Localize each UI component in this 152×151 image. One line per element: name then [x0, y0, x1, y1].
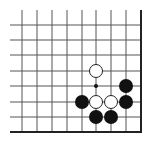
white-stone[interactable]: [105, 96, 118, 109]
black-stone[interactable]: [104, 110, 118, 124]
white-stone[interactable]: [90, 96, 103, 109]
black-stone[interactable]: [89, 110, 103, 124]
black-stone[interactable]: [119, 79, 133, 93]
markers: [94, 84, 98, 88]
grid-lines: [10, 10, 141, 132]
stones: [75, 65, 133, 125]
go-board-canvas: [0, 0, 152, 151]
black-stone[interactable]: [119, 95, 133, 109]
white-stone[interactable]: [90, 65, 103, 78]
point-marker-dot: [94, 84, 98, 88]
black-stone[interactable]: [75, 95, 89, 109]
go-board: [0, 0, 152, 151]
